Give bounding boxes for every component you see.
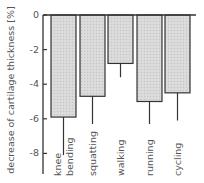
bar-cycling xyxy=(165,15,190,93)
x-category-label: bending xyxy=(64,137,75,176)
bar-running xyxy=(137,15,162,102)
y-tick-label: -2 xyxy=(21,44,39,55)
y-tick-label: -6 xyxy=(21,113,39,124)
y-tick-label: 0 xyxy=(21,9,39,20)
y-tick-label: -4 xyxy=(21,78,39,89)
bar-walking xyxy=(108,15,133,63)
x-category-label: knee xyxy=(52,153,63,176)
x-category-label: walking xyxy=(115,140,126,176)
x-category-label: squatting xyxy=(87,131,98,176)
bar-chart: decrease of cartilage thickness [%] 0-2-… xyxy=(0,0,204,183)
x-category-label: cycling xyxy=(172,143,183,176)
bar-knee-bending xyxy=(51,15,76,117)
x-category-label: running xyxy=(144,139,155,176)
y-tick-label: -8 xyxy=(21,147,39,158)
y-axis-label: decrease of cartilage thickness [%] xyxy=(5,5,17,175)
bar-squatting xyxy=(80,15,105,96)
